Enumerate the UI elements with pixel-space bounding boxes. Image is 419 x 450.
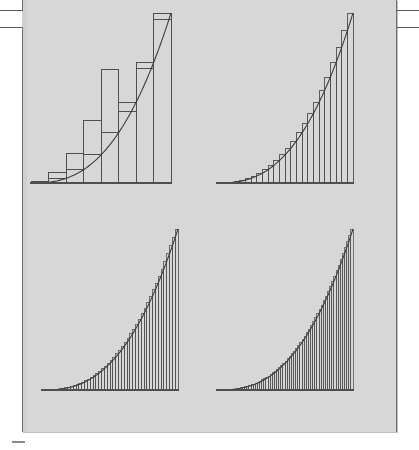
riemann-rectangle (107, 363, 110, 390)
riemann-rectangle (308, 114, 314, 183)
riemann-rectangle (104, 366, 107, 390)
riemann-rectangle (170, 246, 173, 390)
left-margin-rule-second (0, 27, 23, 28)
riemann-rectangle (302, 124, 308, 183)
riemann-rectangle (102, 369, 105, 390)
riemann-plot-64 (211, 216, 400, 432)
riemann-rectangle (347, 13, 353, 183)
riemann-rectangle (133, 329, 136, 390)
left-margin-rule-top (0, 10, 23, 11)
riemann-rectangle (325, 77, 331, 183)
figure-panel-grid (22, 0, 397, 432)
riemann-rectangle (172, 238, 175, 390)
riemann-plot-8 (22, 0, 211, 216)
riemann-rectangle (342, 31, 348, 183)
riemann-rectangle (175, 229, 178, 390)
riemann-rectangle (113, 357, 116, 390)
riemann-rectangle (158, 276, 161, 390)
panel-bottom-left (22, 216, 211, 432)
riemann-rectangle (144, 308, 147, 390)
riemann-rectangle (330, 63, 336, 183)
riemann-rectangle (136, 324, 139, 390)
riemann-plot-48 (22, 216, 211, 432)
riemann-rectangle (313, 103, 319, 183)
riemann-rectangle (127, 338, 130, 390)
riemann-rectangle (130, 334, 133, 390)
riemann-rectangle (164, 262, 167, 390)
riemann-rectangle (161, 269, 164, 390)
riemann-rectangle (153, 290, 156, 390)
rectangles-group-64 (217, 229, 353, 390)
riemann-rectangle (336, 47, 342, 183)
riemann-rectangle (274, 161, 280, 183)
panel-top-left (22, 0, 211, 216)
riemann-rectangle (124, 343, 127, 390)
riemann-rectangle (141, 314, 144, 390)
rectangles-group-24 (217, 13, 353, 183)
rectangles-group-48 (42, 229, 178, 390)
riemann-rectangle (101, 133, 119, 183)
riemann-rectangle (119, 103, 137, 183)
riemann-rectangle (121, 347, 124, 390)
bottom-page-dash-mark (12, 441, 25, 443)
riemann-rectangle (96, 373, 99, 390)
riemann-rectangle (319, 90, 325, 183)
rectangles-group-8 (31, 13, 171, 183)
riemann-rectangle (155, 283, 158, 390)
riemann-rectangle (147, 302, 150, 390)
riemann-plot-24 (211, 0, 400, 216)
riemann-rectangle (351, 229, 353, 390)
panel-top-right (211, 0, 400, 216)
riemann-rectangle (110, 360, 113, 390)
scanned-page-canvas (0, 0, 419, 450)
riemann-rectangle (150, 296, 153, 390)
riemann-rectangle (119, 350, 122, 390)
riemann-rectangle (167, 254, 170, 390)
riemann-rectangle (99, 371, 102, 390)
riemann-rectangle (136, 63, 154, 183)
riemann-rectangle (84, 155, 102, 183)
riemann-rectangle (116, 354, 119, 390)
riemann-rectangle (138, 319, 141, 390)
panel-bottom-right (211, 216, 400, 432)
